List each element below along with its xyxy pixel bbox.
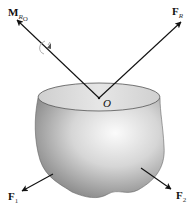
f1-label: F1 xyxy=(8,190,19,205)
resultant-label: FR xyxy=(172,5,184,20)
rigid-body xyxy=(35,98,164,198)
origin-point xyxy=(98,97,100,99)
force-diagram: MRO FR O F1 F2 xyxy=(0,0,195,214)
moment-label: MRO xyxy=(8,6,28,23)
f2-label: F2 xyxy=(176,189,187,204)
force-f1-arrow xyxy=(22,174,53,191)
origin-label: O xyxy=(103,97,111,109)
